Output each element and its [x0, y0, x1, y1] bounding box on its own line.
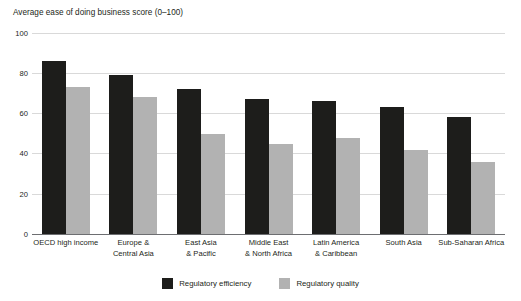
y-tick-label: 80: [2, 69, 28, 78]
bar-regulatory-quality: [201, 134, 225, 235]
y-tick-label: 100: [2, 29, 28, 38]
x-axis-label: OECD high income: [32, 238, 100, 259]
bar-regulatory-efficiency: [42, 61, 66, 234]
bar-group: [32, 33, 100, 234]
bar-group: [302, 33, 370, 234]
y-axis-ticks: 100 80 60 40 20 0: [0, 33, 28, 234]
bar-group: [437, 33, 505, 234]
legend-swatch-icon: [279, 278, 290, 289]
x-axis-label-line: Central Asia: [100, 249, 168, 260]
bar-regulatory-efficiency: [380, 107, 404, 234]
bar-regulatory-efficiency: [177, 89, 201, 234]
bar-group: [370, 33, 438, 234]
bar-regulatory-quality: [404, 150, 428, 234]
x-axis-labels: OECD high incomeEurope &Central AsiaEast…: [32, 238, 505, 259]
bar-regulatory-quality: [269, 144, 293, 234]
x-axis-label-line: OECD high income: [32, 238, 100, 249]
x-axis-label-line: & North Africa: [235, 249, 303, 260]
bar-regulatory-efficiency: [109, 75, 133, 234]
x-axis-label: Middle East& North Africa: [235, 238, 303, 259]
y-tick-label: 20: [2, 190, 28, 199]
y-tick-label: 40: [2, 149, 28, 158]
bar-regulatory-quality: [471, 162, 495, 234]
x-axis-label-line: Sub-Saharan Africa: [437, 238, 505, 249]
x-axis-label: South Asia: [370, 238, 438, 259]
bar-regulatory-quality: [133, 97, 157, 234]
x-axis-label-line: Latin America: [302, 238, 370, 249]
bar-regulatory-efficiency: [447, 117, 471, 234]
y-axis-title: Average ease of doing business score (0–…: [13, 8, 183, 17]
x-axis-label-line: & Pacific: [167, 249, 235, 260]
x-axis-label: Latin America& Caribbean: [302, 238, 370, 259]
legend-label: Regulatory quality: [296, 279, 358, 288]
x-axis-label-line: East Asia: [167, 238, 235, 249]
bar-regulatory-efficiency: [245, 99, 269, 234]
bar-group: [235, 33, 303, 234]
legend-swatch-icon: [162, 278, 173, 289]
x-axis-label-line: Middle East: [235, 238, 303, 249]
chart-legend: Regulatory efficiencyRegulatory quality: [0, 278, 521, 289]
legend-item[interactable]: Regulatory efficiency: [162, 278, 251, 289]
x-axis-label: East Asia& Pacific: [167, 238, 235, 259]
bar-groups: [32, 33, 505, 234]
y-tick-label: 60: [2, 109, 28, 118]
y-tick-label: 0: [2, 230, 28, 239]
axis-baseline: [32, 234, 505, 235]
x-axis-label-line: South Asia: [370, 238, 438, 249]
x-axis-label: Sub-Saharan Africa: [437, 238, 505, 259]
bar-regulatory-quality: [336, 138, 360, 234]
x-axis-label: Europe &Central Asia: [100, 238, 168, 259]
x-axis-label-line: & Caribbean: [302, 249, 370, 260]
bar-chart: Average ease of doing business score (0–…: [0, 0, 521, 301]
legend-item[interactable]: Regulatory quality: [279, 278, 358, 289]
x-axis-label-line: Europe &: [100, 238, 168, 249]
bar-regulatory-quality: [66, 87, 90, 234]
bar-group: [100, 33, 168, 234]
legend-label: Regulatory efficiency: [179, 279, 251, 288]
bar-regulatory-efficiency: [312, 101, 336, 234]
bar-group: [167, 33, 235, 234]
